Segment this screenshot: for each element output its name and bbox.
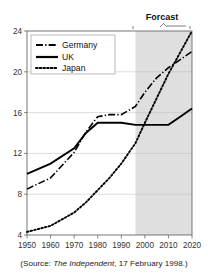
caption-suffix: , 17 February 1998.) [114, 259, 188, 268]
y-axis-tick-label: 24 [13, 27, 23, 36]
x-axis-tick-label: 1990 [112, 241, 131, 250]
legend: Germany UK Japan [31, 35, 115, 74]
y-axis-tick-label: 4 [17, 231, 22, 240]
x-axis-tick-label: 1960 [41, 241, 60, 250]
x-axis-tick-label: 2000 [136, 241, 155, 250]
x-axis-tick-label: 2020 [183, 241, 202, 250]
y-axis-tick-label: 8 [17, 190, 22, 199]
forecast-label: Forcast [146, 12, 179, 22]
x-axis-tick-label: 1950 [18, 241, 37, 250]
legend-label-japan: Japan [62, 63, 86, 73]
caption-prefix: (Source: [20, 259, 53, 268]
source-caption: (Source: The Independent, 17 February 19… [20, 259, 188, 268]
y-axis-tick-label: 20 [13, 68, 23, 77]
y-axis-tick-label: 16 [13, 109, 23, 118]
x-axis-tick-label: 2010 [159, 241, 178, 250]
legend-label-uk: UK [62, 52, 74, 62]
x-axis-tick-label: 1980 [89, 241, 108, 250]
chart-figure: 2420161284 19501960197019801990200020102… [0, 0, 208, 280]
forecast-shaded-region [135, 31, 192, 235]
x-axis-tick-label: 1970 [65, 241, 84, 250]
caption-publication: The Independent [53, 259, 115, 268]
legend-label-germany: Germany [62, 40, 98, 50]
line-chart: 2420161284 19501960197019801990200020102… [0, 0, 208, 280]
y-axis-tick-label: 12 [13, 149, 23, 158]
